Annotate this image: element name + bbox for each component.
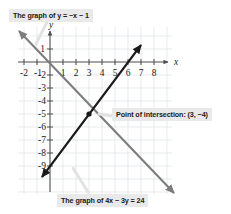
graph-label-line1-text: The graph of y = −x − 1 <box>13 11 89 20</box>
x-tick-label: 3 <box>87 68 92 78</box>
y-tick-label: -7 <box>38 135 46 145</box>
point-of-intersection-dot <box>86 111 91 116</box>
y-tick-label: -5 <box>38 109 46 119</box>
y-tick-labels: 1 -2 -3 -4 -5 -6 -7 -8 -9 <box>38 44 46 171</box>
x-tick-label: 8 <box>152 68 157 78</box>
intersection-label-text: Point of intersection: (3, −4) <box>116 110 208 119</box>
x-tick-label: 6 <box>126 68 131 78</box>
coordinate-graph: -2 -1 1 2 3 4 5 6 7 8 1 -2 -3 -4 -5 -6 -… <box>0 0 231 214</box>
graph-label-line2-text: The graph of 4x − 3y = 24 <box>61 196 144 205</box>
x-tick-label: 2 <box>74 68 79 78</box>
y-tick-label: -2 <box>38 70 46 80</box>
y-tick-label: -6 <box>38 122 46 132</box>
y-tick-label: -3 <box>38 83 46 93</box>
intersection-label: Point of intersection: (3, −4) <box>112 108 212 121</box>
figure-canvas: -2 -1 1 2 3 4 5 6 7 8 1 -2 -3 -4 -5 -6 -… <box>0 0 231 214</box>
x-tick-label: 4 <box>100 68 105 78</box>
y-tick-label: -9 <box>38 161 46 171</box>
y-tick-label: -4 <box>38 96 46 106</box>
graph-label-line2: The graph of 4x − 3y = 24 <box>57 194 148 207</box>
y-tick-label: -8 <box>38 148 46 158</box>
x-axis-label: x <box>173 57 179 67</box>
x-tick-label: -2 <box>20 68 28 78</box>
x-tick-label: 7 <box>139 68 144 78</box>
graph-label-line1: The graph of y = −x − 1 <box>9 9 93 22</box>
